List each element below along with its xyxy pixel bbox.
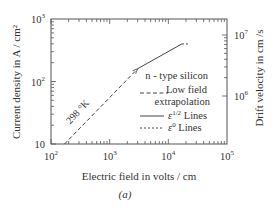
y2-tick-label: 106 (234, 89, 249, 102)
series-line-2 (138, 44, 182, 69)
y-tick-label: 102 (31, 75, 46, 88)
figure-caption: (a) (119, 188, 132, 201)
x-tick-label: 103 (103, 149, 118, 162)
legend-title: n - type silicon (145, 70, 208, 81)
legend-label-low-field-2: extrapolation (155, 96, 211, 107)
y2-axis-label: Drift velocity in cm /s (253, 29, 265, 126)
y-axis-label: Current density in A / cm² (10, 24, 22, 139)
legend-label-zero: ε0 Lines (168, 121, 202, 133)
y-tick-label: 10 (35, 139, 46, 150)
x-axis-label: Electric field in volts / cm (82, 170, 197, 182)
y-tick-label: 103 (31, 12, 46, 25)
legend-label-sqrt: ε1/2 Lines (168, 109, 207, 121)
temperature-annotation: 298 °K (64, 97, 92, 126)
y2-tick-label: 107 (234, 28, 249, 41)
x-tick-label: 104 (161, 149, 176, 162)
x-tick-label: 105 (220, 149, 235, 162)
chart: 10210310410510102103107106 Current densi… (0, 0, 275, 212)
x-tick-label: 102 (44, 149, 59, 162)
legend-label-low-field-1: Low field (166, 84, 208, 95)
ticks: 10210310410510102103107106 (31, 12, 249, 162)
legend: n - type silicon Low field extrapolation… (140, 70, 211, 133)
